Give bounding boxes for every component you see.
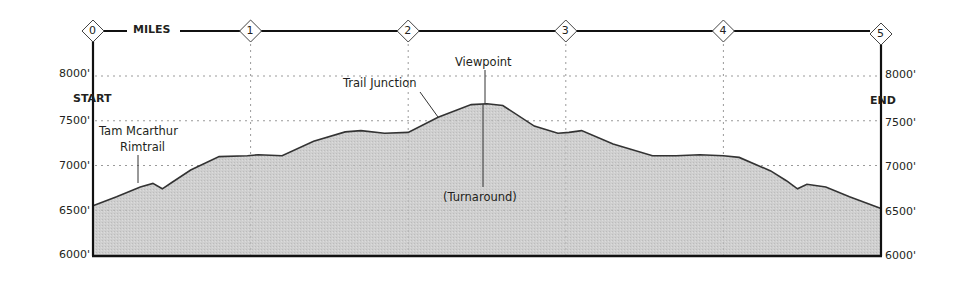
annotation-tam-mcarthur: Tam Mcarthur xyxy=(99,125,178,137)
y-label-right-7500: 7500' xyxy=(885,117,916,129)
miles-axis-label: MILES xyxy=(133,24,171,36)
mile-marker-number-1: 1 xyxy=(247,25,254,37)
trail-junction-leader-line xyxy=(420,92,438,117)
y-label-right-8000: 8000' xyxy=(885,69,916,81)
elevation-area xyxy=(93,104,881,255)
y-label-left-6000: 6000' xyxy=(30,249,90,261)
annotation-viewpoint: Viewpoint xyxy=(455,56,512,68)
annotation-rimtrail: Rimtrail xyxy=(120,141,165,153)
mile-marker-number-5: 5 xyxy=(877,28,884,40)
annotation-turnaround: (Turnaround) xyxy=(443,191,517,203)
y-label-left-7000: 7000' xyxy=(30,160,90,172)
start-label: START xyxy=(73,93,112,105)
mile-marker-number-4: 4 xyxy=(719,25,726,37)
mile-markers xyxy=(82,20,892,45)
y-label-right-6000: 6000' xyxy=(885,250,916,262)
annotation-trail-junction: Trail Junction xyxy=(343,77,416,89)
mile-marker-number-3: 3 xyxy=(562,25,569,37)
mile-marker-number-0: 0 xyxy=(89,25,96,37)
y-label-left-7500: 7500' xyxy=(30,115,90,127)
y-label-left-8000: 8000' xyxy=(30,68,90,80)
end-label: END xyxy=(870,95,896,107)
y-label-left-6500: 6500' xyxy=(30,205,90,217)
y-label-right-6500: 6500' xyxy=(885,206,916,218)
mile-marker-number-2: 2 xyxy=(404,25,411,37)
y-label-right-7000: 7000' xyxy=(885,161,916,173)
